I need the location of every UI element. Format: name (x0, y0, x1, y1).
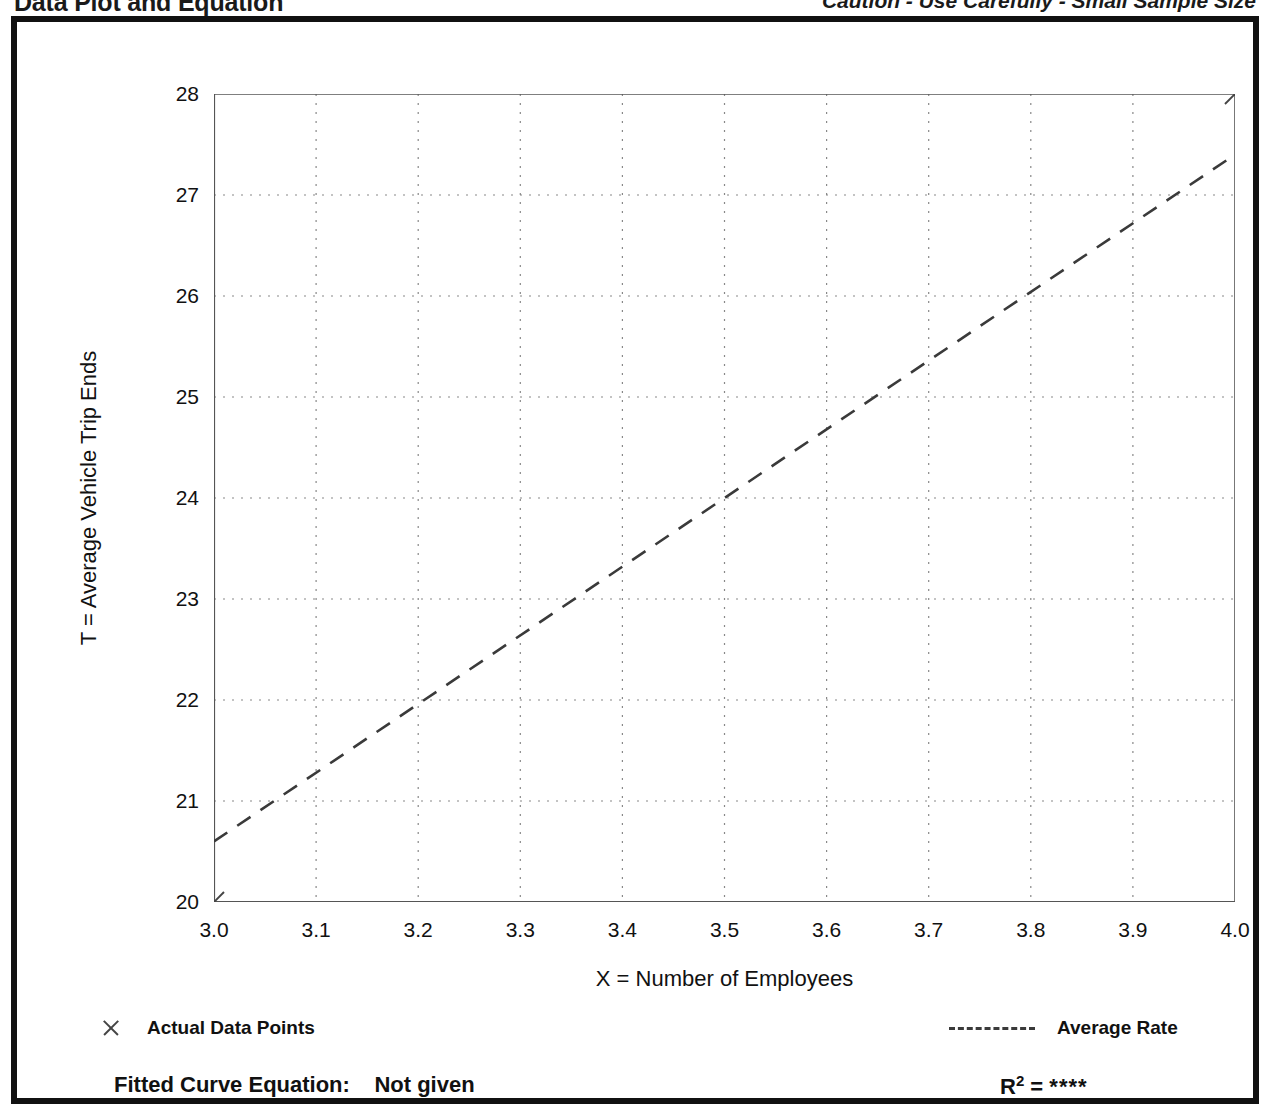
plot-canvas (214, 94, 1235, 902)
x-axis-tick-labels: 3.03.13.23.33.43.53.63.73.83.94.0 (214, 918, 1235, 948)
x-tick-label: 3.8 (1016, 918, 1045, 942)
x-tick-label: 3.1 (301, 918, 330, 942)
caution-note: Caution - Use Carefully - Small Sample S… (822, 0, 1256, 13)
x-tick-label: 3.0 (199, 918, 228, 942)
r-squared-exponent: 2 (1016, 1072, 1024, 1089)
x-tick-label: 4.0 (1220, 918, 1249, 942)
chart-page: Data Plot and Equation Caution - Use Car… (0, 0, 1270, 1112)
dashed-line-icon (949, 1027, 1035, 1030)
y-tick-label: 23 (176, 587, 199, 611)
y-tick-label: 27 (176, 183, 199, 207)
x-tick-label: 3.3 (506, 918, 535, 942)
x-tick-label: 3.5 (710, 918, 739, 942)
x-tick-label: 3.9 (1118, 918, 1147, 942)
legend-label-average-rate: Average Rate (1057, 1017, 1178, 1039)
y-tick-label: 25 (176, 385, 199, 409)
legend-average-rate: Average Rate (949, 1017, 1178, 1039)
y-axis-tick-labels: 202122232425262728 (135, 94, 199, 902)
fitted-curve-equation-value: Not given (374, 1072, 474, 1097)
grid-lines (214, 94, 1235, 902)
y-tick-label: 20 (176, 890, 199, 914)
r-squared-label: R (1000, 1074, 1016, 1099)
r-squared-equals: = (1030, 1074, 1043, 1099)
y-tick-label: 21 (176, 789, 199, 813)
fitted-curve-equation: Fitted Curve Equation: Not given (114, 1072, 475, 1098)
r-squared-stars: **** (1049, 1074, 1087, 1099)
legend-label-actual-data-points: Actual Data Points (147, 1017, 315, 1039)
x-tick-label: 3.7 (914, 918, 943, 942)
x-mark-icon (101, 1018, 121, 1038)
chart-frame: T = Average Vehicle Trip Ends 2021222324… (11, 16, 1259, 1104)
y-axis-title-text: T = Average Vehicle Trip Ends (76, 351, 102, 646)
y-axis-title: T = Average Vehicle Trip Ends (69, 22, 109, 974)
x-tick-label: 3.6 (812, 918, 841, 942)
y-tick-label: 26 (176, 284, 199, 308)
legend-actual-data-points: Actual Data Points (101, 1017, 315, 1039)
x-tick-label: 3.2 (404, 918, 433, 942)
fitted-curve-equation-label: Fitted Curve Equation: (114, 1072, 350, 1097)
r-squared-value: R2 = **** (1000, 1072, 1088, 1100)
y-tick-label: 24 (176, 486, 199, 510)
page-title: Data Plot and Equation (14, 0, 283, 17)
y-tick-label: 28 (176, 82, 199, 106)
plot-area (214, 94, 1235, 902)
y-tick-label: 22 (176, 688, 199, 712)
x-tick-label: 3.4 (608, 918, 637, 942)
x-axis-title: X = Number of Employees (214, 966, 1235, 992)
